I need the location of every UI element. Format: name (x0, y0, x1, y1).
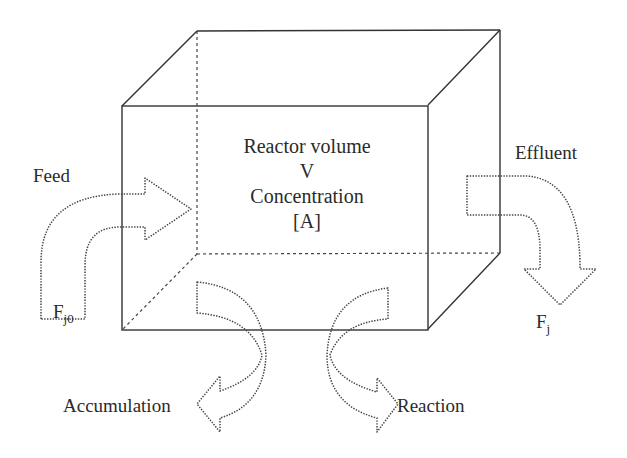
effluent-label: Effluent (515, 142, 578, 163)
reaction-arrow-icon (327, 288, 398, 432)
volume-symbol: V (300, 160, 315, 182)
reactor-volume-label: Reactor volume (243, 135, 370, 157)
feed-arrow-icon (41, 178, 191, 319)
accumulation-arrow-icon (197, 282, 266, 432)
concentration-symbol: [A] (293, 210, 321, 232)
feed-flow-symbol: Fj0 (53, 301, 74, 326)
effluent-arrow-icon (467, 176, 596, 305)
concentration-label: Concentration (250, 185, 363, 207)
reactor-diagram: Reactor volume V Concentration [A] Feed … (0, 0, 627, 458)
feed-label: Feed (33, 165, 70, 186)
accumulation-label: Accumulation (63, 395, 171, 416)
reaction-label: Reaction (397, 395, 465, 416)
reactor-label: Reactor volume V Concentration [A] (243, 135, 370, 232)
effluent-flow-symbol: Fj (536, 311, 550, 336)
